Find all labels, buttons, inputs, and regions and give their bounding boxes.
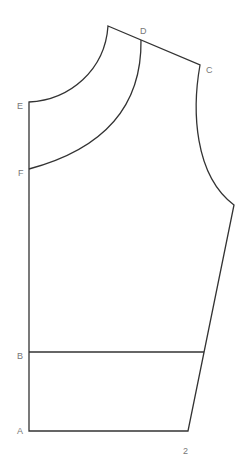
label-a: A [17, 426, 23, 436]
label-e: E [17, 101, 23, 111]
pattern-diagram: D C E F B A 2 [0, 0, 246, 465]
label-b: B [17, 351, 23, 361]
page-number: 2 [183, 446, 188, 456]
facing-curve-d-f [29, 40, 141, 169]
label-d: D [140, 26, 147, 36]
label-f: F [18, 168, 24, 178]
label-c: C [206, 65, 213, 75]
pattern-outline [29, 26, 234, 431]
